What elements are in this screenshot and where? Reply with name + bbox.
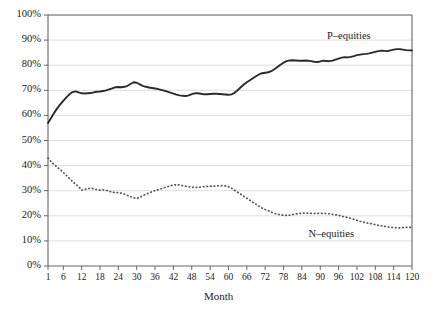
y-axis-tick-label: 90% bbox=[22, 33, 41, 44]
y-axis-tick-label: 0% bbox=[27, 259, 41, 270]
y-axis-tick-label: 20% bbox=[22, 209, 41, 220]
y-axis-tick-label: 40% bbox=[22, 159, 41, 170]
y-axis-tick-label: 60% bbox=[22, 108, 41, 119]
x-axis-title: Month bbox=[204, 290, 233, 302]
chart-plot-svg bbox=[0, 0, 436, 315]
y-axis-tick-label: 30% bbox=[22, 184, 41, 195]
y-axis-tick-label: 70% bbox=[22, 83, 41, 94]
series-label-n-equities: N–equities bbox=[309, 228, 355, 239]
series-label-p-equities: P–equities bbox=[327, 30, 371, 41]
y-axis-tick-label: 100% bbox=[17, 8, 42, 19]
chart-container: 0%10%20%30%40%50%60%70%80%90%100% 161218… bbox=[0, 0, 436, 315]
y-axis-tick-label: 50% bbox=[22, 134, 41, 145]
y-axis-tick-label: 10% bbox=[22, 234, 41, 245]
y-axis-tick-label: 80% bbox=[22, 58, 41, 69]
x-axis-tick-label: 120 bbox=[399, 272, 425, 282]
chart-background bbox=[0, 0, 436, 315]
